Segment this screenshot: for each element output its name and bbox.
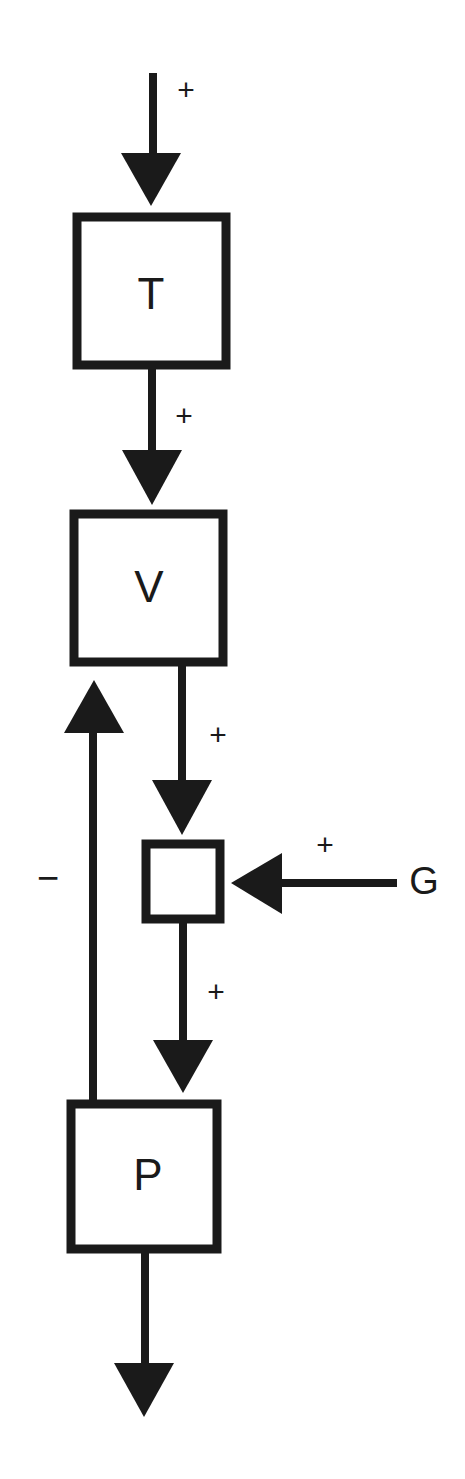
sign-feedback: − bbox=[37, 857, 59, 899]
sign-t-to-v: + bbox=[175, 399, 193, 432]
arrowhead-down-icon bbox=[121, 153, 181, 206]
sign-g-to-junction: + bbox=[316, 828, 334, 861]
arrow-input-to-t bbox=[121, 73, 181, 206]
node-v-label: V bbox=[134, 562, 164, 611]
node-v: V bbox=[74, 514, 223, 662]
arrowhead-down-icon bbox=[114, 1363, 174, 1417]
sign-v-to-junction: + bbox=[209, 718, 227, 751]
arrow-junction-to-p bbox=[153, 923, 213, 1093]
node-p-label: P bbox=[133, 1150, 162, 1199]
arrow-p-to-v-feedback bbox=[64, 680, 124, 1100]
arrowhead-down-icon bbox=[152, 780, 212, 835]
arrow-p-output bbox=[114, 1252, 174, 1417]
node-t: T bbox=[77, 217, 226, 365]
arrow-g-to-junction bbox=[231, 853, 397, 914]
sign-input-to-t: + bbox=[177, 73, 195, 106]
sign-junction-to-p: + bbox=[207, 975, 225, 1008]
input-g-label: G bbox=[409, 860, 439, 902]
node-p: P bbox=[71, 1104, 217, 1249]
node-junction bbox=[146, 844, 220, 919]
arrow-v-to-junction bbox=[152, 666, 212, 835]
node-t-label: T bbox=[138, 269, 165, 318]
arrowhead-up-icon bbox=[64, 680, 124, 733]
arrowhead-down-icon bbox=[122, 450, 182, 505]
block-diagram: + T + V + + G + P bbox=[0, 0, 465, 1479]
arrowhead-down-icon bbox=[153, 1040, 213, 1093]
arrow-t-to-v bbox=[122, 369, 182, 505]
arrowhead-left-icon bbox=[231, 853, 282, 914]
